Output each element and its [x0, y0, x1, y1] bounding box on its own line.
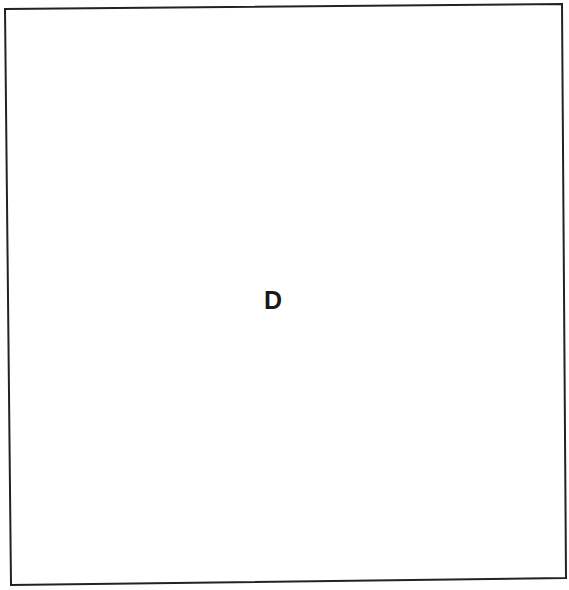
panel-frame	[0, 0, 569, 590]
panel-label: D	[264, 288, 282, 313]
panel-border	[5, 4, 566, 585]
